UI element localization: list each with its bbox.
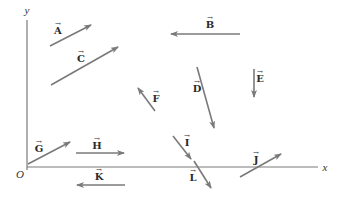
vector-l-label: →L xyxy=(189,173,196,183)
vector-j-label: →J xyxy=(254,155,259,165)
vectors-group xyxy=(28,25,281,188)
vector-arrow-accent-icon: → xyxy=(96,167,102,174)
origin-label: O xyxy=(16,169,24,180)
y-axis-label: y xyxy=(25,5,30,16)
vector-arrow-accent-icon: → xyxy=(253,150,259,157)
vector-b-label: →B xyxy=(206,20,214,30)
vector-arrow-accent-icon: → xyxy=(36,139,42,146)
vector-e-label: →E xyxy=(256,74,264,84)
vector-arrow-accent-icon: → xyxy=(94,136,100,143)
vector-d-arrow xyxy=(197,67,214,128)
vector-arrow-accent-icon: → xyxy=(78,49,84,56)
x-axis-label: x xyxy=(323,162,328,173)
vector-g-label: →G xyxy=(35,144,44,154)
vector-arrow-accent-icon: → xyxy=(184,133,190,140)
vector-h-label: →H xyxy=(92,141,101,151)
vector-arrow-accent-icon: → xyxy=(55,21,61,28)
vector-arrow-accent-icon: → xyxy=(190,168,196,175)
vector-f-label: →F xyxy=(152,94,159,104)
vector-j-arrow xyxy=(240,154,281,177)
vector-l-arrow xyxy=(194,161,211,188)
vector-arrow-accent-icon: → xyxy=(153,89,159,96)
vector-arrow-accent-icon: → xyxy=(257,69,263,76)
vector-arrow-accent-icon: → xyxy=(194,79,200,86)
vector-diagram: y x O →A→B→C→D→E→F→G→H→I→J→K→L xyxy=(0,0,339,199)
diagram-canvas xyxy=(0,0,339,199)
vector-k-label: →K xyxy=(95,172,104,182)
vector-d-label: →D xyxy=(193,84,202,94)
vector-arrow-accent-icon: → xyxy=(207,15,213,22)
vector-a-label: →A xyxy=(54,26,62,36)
vector-i-label: →I xyxy=(185,138,190,148)
vector-c-label: →C xyxy=(77,54,85,64)
